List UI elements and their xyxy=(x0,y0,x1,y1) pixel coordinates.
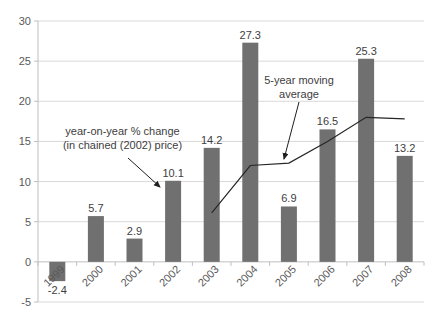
bar-2006 xyxy=(320,129,336,261)
x-axis-label: 2005 xyxy=(273,263,299,289)
y-axis-tick-label: 25 xyxy=(19,55,31,67)
bar-2007 xyxy=(358,59,374,262)
x-axis-label: 2004 xyxy=(234,263,260,289)
x-axis-label: 2008 xyxy=(388,263,414,289)
bar-value-label: 10.1 xyxy=(162,167,183,179)
y-axis-tick-label: 0 xyxy=(25,256,31,268)
x-axis-label: 2003 xyxy=(195,263,221,289)
y-axis-tick-label: 10 xyxy=(19,176,31,188)
bar-value-label: 16.5 xyxy=(317,115,338,127)
annotation-moving-average: 5-year moving average xyxy=(251,73,347,101)
yoy-annotation-arrow-icon xyxy=(128,158,160,187)
bar-value-label: 25.3 xyxy=(355,45,376,57)
annotation-yoy-line2: (in chained (2002) price) xyxy=(50,138,195,152)
bar-2001 xyxy=(127,239,143,262)
moving-average-line xyxy=(212,117,405,213)
bar-value-label: 6.9 xyxy=(281,192,296,204)
x-axis-label: 2001 xyxy=(118,263,144,289)
annotation-ma-line1: 5-year moving xyxy=(251,73,347,87)
bar-value-label: 2.9 xyxy=(127,225,142,237)
bar-2003 xyxy=(204,148,220,262)
y-axis-tick-label: 30 xyxy=(19,15,31,27)
bar-value-label: 13.2 xyxy=(394,142,415,154)
bar-2000 xyxy=(88,216,104,262)
annotation-yoy-change: year-on-year % change (in chained (2002)… xyxy=(50,124,195,152)
y-axis-tick-label: 5 xyxy=(25,216,31,228)
x-axis-label: 2002 xyxy=(157,263,183,289)
bar-value-label: 5.7 xyxy=(88,202,103,214)
bar-value-label: 14.2 xyxy=(201,134,222,146)
y-axis-tick-label: -5 xyxy=(21,296,31,308)
chart: -5051015202530-2.45.72.910.114.227.36.91… xyxy=(0,0,434,320)
y-axis-tick-label: 20 xyxy=(19,95,31,107)
bar-2008 xyxy=(397,156,413,262)
y-axis-tick-label: 15 xyxy=(19,135,31,147)
bar-chart-plot: -5051015202530-2.45.72.910.114.227.36.91… xyxy=(0,0,434,320)
bar-2005 xyxy=(281,206,297,261)
bar-value-label: 27.3 xyxy=(240,29,261,41)
x-axis-label: 2007 xyxy=(350,263,376,289)
annotation-ma-line2: average xyxy=(251,87,347,101)
bar-2002 xyxy=(165,181,181,262)
x-axis-label: 2000 xyxy=(80,263,106,289)
annotation-yoy-line1: year-on-year % change xyxy=(50,124,195,138)
x-axis-label: 2006 xyxy=(311,263,337,289)
ma-annotation-arrow-icon xyxy=(284,102,299,159)
